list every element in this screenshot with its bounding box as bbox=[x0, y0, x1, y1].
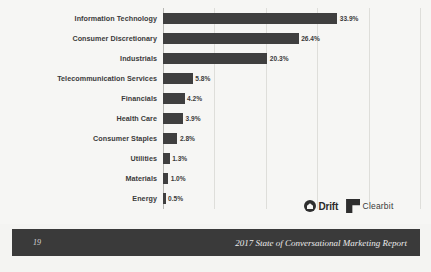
bar-value-label: 0.5% bbox=[168, 195, 183, 202]
gridline bbox=[420, 8, 421, 209]
footer-page-number: 19 bbox=[33, 238, 41, 247]
drift-logo[interactable]: Drift bbox=[304, 200, 338, 212]
chart-bar-row: Utilities1.3% bbox=[163, 149, 420, 169]
chart-bar bbox=[163, 73, 193, 84]
chart-bar-row: Financials4.2% bbox=[163, 88, 420, 108]
chart-bar-rows: Information Technology33.9%Consumer Disc… bbox=[163, 8, 420, 209]
category-label: Telecommunication Services bbox=[57, 74, 157, 83]
category-label: Materials bbox=[125, 174, 157, 183]
chart-bar-row: Consumer Staples2.8% bbox=[163, 129, 420, 149]
chart-bar bbox=[163, 33, 299, 44]
chart-bar-row: Health Care3.9% bbox=[163, 109, 420, 129]
chart-bar bbox=[163, 93, 185, 104]
clearbit-logo-icon bbox=[346, 199, 360, 213]
chart-bar bbox=[163, 133, 177, 144]
category-label: Utilities bbox=[131, 154, 157, 163]
bar-value-label: 5.8% bbox=[195, 75, 210, 82]
chart-bar-row: Telecommunication Services5.8% bbox=[163, 68, 420, 88]
chart-bar bbox=[163, 53, 267, 64]
bar-value-label: 4.2% bbox=[187, 95, 202, 102]
clearbit-logo-label: Clearbit bbox=[363, 201, 394, 211]
bar-value-label: 1.0% bbox=[171, 175, 186, 182]
category-label: Consumer Discretionary bbox=[72, 34, 157, 43]
bar-value-label: 26.4% bbox=[301, 35, 320, 42]
slide-page: Information Technology33.9%Consumer Disc… bbox=[0, 0, 431, 272]
category-label: Health Care bbox=[117, 114, 158, 123]
bar-value-label: 33.9% bbox=[340, 15, 359, 22]
chart-bar-row: Materials1.0% bbox=[163, 169, 420, 189]
page-footer: 19 2017 State of Conversational Marketin… bbox=[12, 229, 420, 256]
drift-logo-icon bbox=[304, 200, 316, 212]
category-label: Energy bbox=[132, 194, 157, 203]
chart-bar bbox=[163, 193, 166, 204]
chart-bar-row: Industrials20.3% bbox=[163, 48, 420, 68]
chart-bar-row: Consumer Discretionary26.4% bbox=[163, 28, 420, 48]
chart-bar-row: Information Technology33.9% bbox=[163, 8, 420, 28]
bar-value-label: 2.8% bbox=[180, 135, 195, 142]
footer-report-title: 2017 State of Conversational Marketing R… bbox=[235, 238, 407, 248]
bar-value-label: 3.9% bbox=[186, 115, 201, 122]
chart-bar bbox=[163, 173, 168, 184]
clearbit-logo[interactable]: Clearbit bbox=[346, 199, 393, 213]
category-label: Information Technology bbox=[75, 14, 157, 23]
chart-bar bbox=[163, 153, 170, 164]
category-label: Industrials bbox=[120, 54, 157, 63]
bar-chart-panel: Information Technology33.9%Consumer Disc… bbox=[0, 0, 431, 224]
bar-value-label: 20.3% bbox=[270, 55, 289, 62]
bar-value-label: 1.3% bbox=[172, 155, 187, 162]
chart-bar bbox=[163, 13, 337, 24]
chart-bar bbox=[163, 113, 183, 124]
category-label: Consumer Staples bbox=[93, 134, 157, 143]
sponsor-logos: Drift Clearbit bbox=[304, 197, 420, 215]
category-label: Financials bbox=[121, 94, 157, 103]
drift-logo-label: Drift bbox=[319, 201, 339, 212]
chart-plot-area: Information Technology33.9%Consumer Disc… bbox=[163, 8, 420, 209]
